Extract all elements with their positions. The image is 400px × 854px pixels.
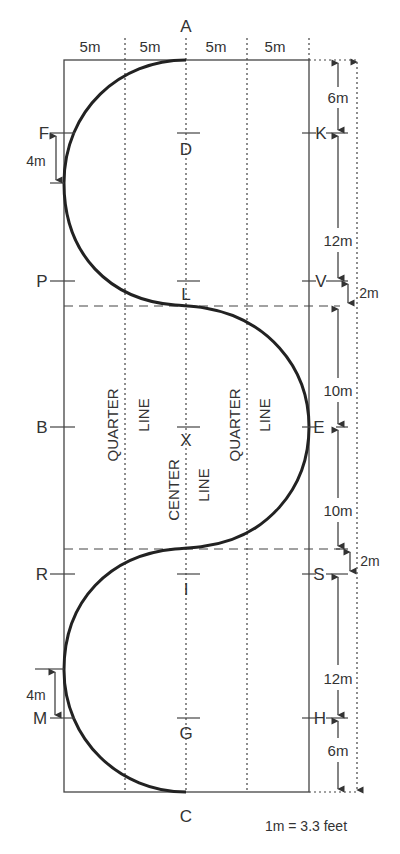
letter-m: M	[33, 709, 47, 728]
left-dim-lower: 4m	[26, 687, 45, 703]
letter-a: A	[180, 17, 192, 36]
letter-b: B	[36, 418, 47, 437]
letter-r: R	[36, 565, 48, 584]
letter-v: V	[315, 272, 327, 291]
right-dim-2m-top: 2m	[359, 285, 378, 301]
letter-h: H	[314, 709, 326, 728]
width-dim-4: 5m	[265, 38, 286, 55]
quarter-line-right-label-1: QUARTER	[226, 388, 243, 461]
width-dim-1: 5m	[80, 38, 101, 55]
right-dim-10m-upper: 10m	[323, 382, 352, 399]
left-dim-upper: 4m	[26, 153, 45, 169]
right-dim-6m-bottom: 6m	[328, 742, 349, 759]
center-line-label-1: CENTER	[165, 459, 182, 521]
center-line-label-2: LINE	[195, 468, 212, 501]
letter-s: S	[313, 565, 324, 584]
width-dim-3: 5m	[206, 38, 227, 55]
quarter-line-right-label-2: LINE	[256, 398, 273, 431]
letter-f: F	[39, 124, 49, 143]
right-dim-2m-bottom: 2m	[360, 553, 379, 569]
right-dim-6m-top: 6m	[328, 89, 349, 106]
letter-i: I	[184, 580, 189, 599]
marker-ticks	[35, 133, 348, 718]
quarter-line-left-label-2: LINE	[135, 398, 152, 431]
letter-p: P	[36, 272, 47, 291]
scale-note: 1m = 3.3 feet	[265, 818, 347, 834]
arena-diagram: A C D L X I G F P B R M K V E S H 5m 5m …	[0, 0, 400, 854]
right-dim-12m-top: 12m	[323, 232, 352, 249]
quarter-line-left-label-1: QUARTER	[104, 388, 121, 461]
width-dim-2: 5m	[140, 38, 161, 55]
letter-e: E	[313, 418, 324, 437]
dimension-arrows	[55, 63, 350, 789]
right-dim-12m-bottom: 12m	[323, 670, 352, 687]
letter-c: C	[180, 807, 192, 826]
letter-g: G	[179, 724, 192, 743]
right-dim-10m-lower: 10m	[323, 502, 352, 519]
letter-x: X	[180, 431, 191, 450]
letter-l: L	[181, 285, 190, 304]
letter-d: D	[180, 140, 192, 159]
letter-k: K	[315, 124, 327, 143]
